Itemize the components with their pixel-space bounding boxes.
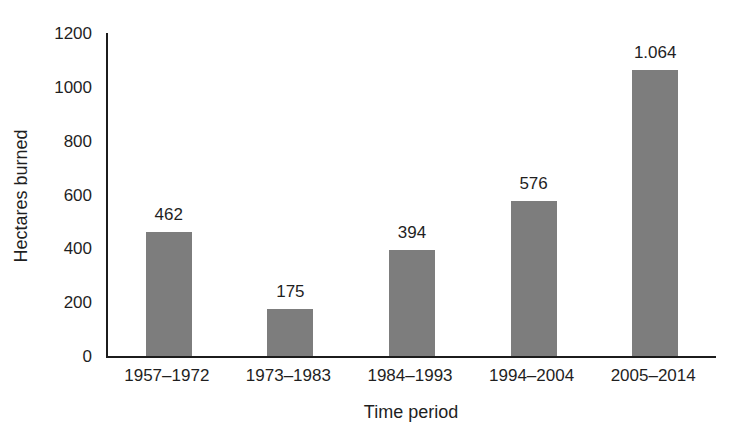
y-tick-label: 400 — [64, 240, 92, 257]
bar — [632, 70, 678, 356]
y-tick-label: 0 — [83, 348, 92, 365]
x-tick-label: 1984–1993 — [367, 366, 452, 386]
y-tick-label: 800 — [64, 132, 92, 149]
x-tick-label: 1994–2004 — [489, 366, 574, 386]
x-tick-label: 1957–1972 — [124, 366, 209, 386]
bar-value-label: 576 — [519, 175, 547, 192]
bar — [511, 201, 557, 356]
bar-value-label: 175 — [276, 283, 304, 300]
plot-area: 4621753945761.064 — [106, 33, 716, 358]
x-tick-label: 1973–1983 — [246, 366, 331, 386]
bar-value-label: 1.064 — [634, 44, 677, 61]
bar-value-label: 394 — [398, 224, 426, 241]
y-tick-label: 200 — [64, 294, 92, 311]
bar — [389, 250, 435, 356]
y-tick-label: 1200 — [54, 25, 92, 42]
bar-value-label: 462 — [155, 206, 183, 223]
y-tick-label: 600 — [64, 186, 92, 203]
x-axis-tick-labels: 1957–19721973–19831984–19931994–20042005… — [106, 366, 716, 388]
y-tick-label: 1000 — [54, 78, 92, 95]
x-axis-title: Time period — [106, 402, 716, 423]
bar — [267, 309, 313, 356]
y-axis-tick-labels: 020040060080010001200 — [0, 33, 92, 358]
x-tick-label: 2005–2014 — [611, 366, 696, 386]
bar-chart-figure: Hectares burned 020040060080010001200 46… — [0, 0, 747, 446]
bar — [146, 232, 192, 356]
